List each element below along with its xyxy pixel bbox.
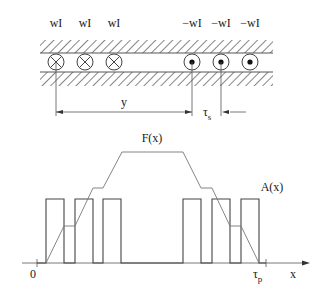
label-wI-2: wI: [79, 16, 92, 30]
label-wI-1: wI: [50, 16, 63, 30]
curve-A-label: A(x): [261, 180, 284, 194]
rotor-iron-bottom: [40, 72, 273, 86]
curve-F-label: F(x): [142, 131, 163, 145]
label-neg-wI-2: −wI: [211, 16, 230, 30]
mmf-diagram: wI wI wI −wI −wI −wI: [0, 0, 325, 298]
label-neg-wI-1: −wI: [182, 16, 201, 30]
stator-iron-top: [40, 40, 273, 53]
conductor-cross-3: [106, 54, 122, 70]
conductor-cross-2: [77, 54, 93, 70]
label-neg-wI-3: −wI: [240, 16, 259, 30]
dimension-y-label: y: [121, 95, 127, 109]
label-wI-3: wI: [108, 16, 121, 30]
axis-origin-label: 0: [30, 267, 36, 281]
curve-A: [37, 199, 266, 263]
curve-F: [46, 152, 259, 263]
tau-s-label: τs: [203, 105, 212, 122]
conductor-dot-3: [242, 54, 258, 70]
axis-tau-p-label: τp: [253, 267, 263, 284]
conductor-labels: wI wI wI −wI −wI −wI: [50, 16, 260, 30]
axis-x-label: x: [290, 267, 296, 281]
